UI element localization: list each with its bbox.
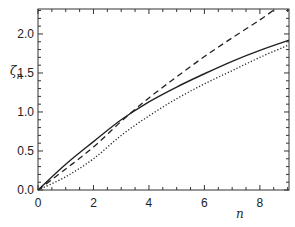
plot-frame <box>38 9 289 190</box>
data-curves <box>38 9 289 190</box>
y-axis-label-sub: n <box>17 70 23 81</box>
y-tick-label: 1.0 <box>17 105 34 119</box>
x-tick-label: 6 <box>201 196 208 210</box>
curve-dashed <box>38 9 275 190</box>
axis-ticks <box>38 9 289 190</box>
line-chart: 024680.00.51.01.52.0 n ζn <box>0 0 295 227</box>
curve-solid <box>38 40 289 190</box>
x-tick-label: 0 <box>35 196 42 210</box>
y-tick-label: 0.5 <box>17 144 34 158</box>
x-axis-label: n <box>236 207 244 221</box>
y-tick-label: 2.0 <box>17 27 34 41</box>
y-tick-label: 0.0 <box>17 183 34 197</box>
curve-dotted <box>38 45 289 190</box>
x-tick-label: 2 <box>90 196 97 210</box>
x-tick-label: 8 <box>257 196 264 210</box>
tick-labels: 024680.00.51.01.52.0 <box>17 27 263 210</box>
x-tick-label: 4 <box>146 196 153 210</box>
